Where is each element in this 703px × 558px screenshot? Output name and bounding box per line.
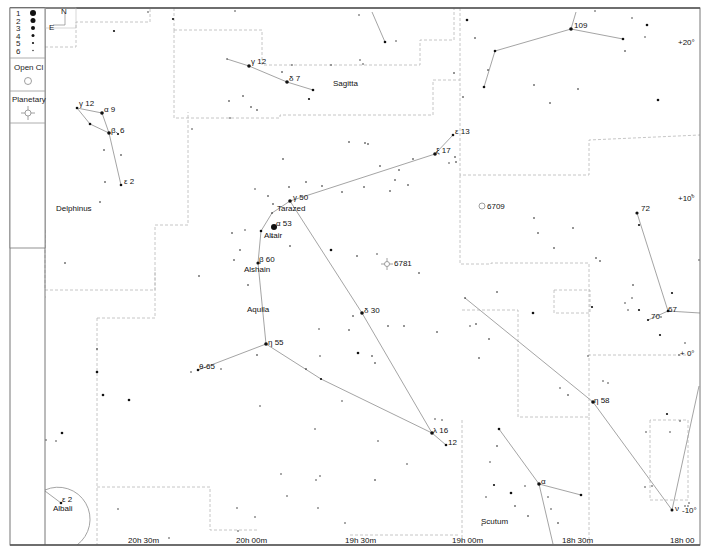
star <box>172 18 174 20</box>
star <box>288 199 292 203</box>
compass-east-label: E <box>49 23 54 32</box>
star <box>403 325 405 327</box>
star <box>379 165 381 167</box>
star <box>229 117 230 118</box>
star <box>524 485 525 486</box>
star-label: α 9 <box>104 105 116 114</box>
star <box>498 428 501 431</box>
star-label: θ-65 <box>199 362 216 371</box>
star <box>254 516 255 517</box>
star-label: η 58 <box>594 396 610 405</box>
star-label: Alshain <box>244 265 270 274</box>
star <box>314 428 315 429</box>
star <box>364 142 366 144</box>
star <box>291 64 292 65</box>
star <box>679 420 680 421</box>
star-label: γ 50 <box>293 193 309 202</box>
star <box>239 249 241 251</box>
star <box>330 64 331 65</box>
ra-tick-label: 20h 30m <box>128 536 159 545</box>
star <box>168 537 169 538</box>
star <box>259 405 260 406</box>
star <box>622 38 625 41</box>
star <box>550 508 551 509</box>
star-label: ε 2 <box>124 177 135 186</box>
magnitude-label: 6 <box>16 47 21 56</box>
star <box>395 40 396 41</box>
star <box>191 128 192 129</box>
star <box>569 27 573 31</box>
star <box>128 399 131 402</box>
star <box>580 494 583 497</box>
star <box>533 217 535 219</box>
star <box>305 181 307 183</box>
star <box>282 158 284 160</box>
star <box>120 154 122 156</box>
star <box>559 387 560 388</box>
star-chart[interactable]: γ 12α 9β. 6ε 2γ 12δ 7109ε 13ξ 17γ 50Tara… <box>0 0 703 558</box>
star <box>315 479 316 480</box>
star <box>357 352 360 355</box>
star <box>698 259 699 260</box>
open-cluster-legend-label: Open Cl <box>14 63 44 72</box>
star <box>319 355 320 356</box>
star <box>376 253 377 254</box>
star <box>474 37 476 39</box>
star <box>312 89 315 92</box>
star <box>635 211 638 214</box>
star <box>320 378 322 380</box>
star <box>271 212 273 214</box>
star <box>374 479 376 481</box>
star-label: 12 <box>448 438 457 447</box>
star <box>453 72 455 74</box>
star <box>487 69 489 71</box>
star <box>236 507 237 508</box>
compass-north-label: N <box>61 7 67 16</box>
star <box>406 463 407 464</box>
magnitude-dot-icon <box>31 26 35 30</box>
star <box>527 515 529 517</box>
star <box>647 319 649 321</box>
star <box>488 338 490 340</box>
star <box>358 14 359 15</box>
star <box>666 413 668 415</box>
star <box>624 302 625 303</box>
ra-tick-label: 19h 00m <box>452 536 483 545</box>
star <box>493 484 495 486</box>
star <box>671 509 674 512</box>
star <box>99 201 101 203</box>
star <box>434 418 435 419</box>
star <box>348 329 350 331</box>
star <box>237 530 238 531</box>
star <box>228 100 230 102</box>
star <box>599 260 601 262</box>
star <box>198 275 200 277</box>
star <box>475 323 477 325</box>
constellation-name: Sagitta <box>333 79 358 88</box>
star-label: ν <box>675 504 679 513</box>
star-label: γ 12 <box>79 99 95 108</box>
star <box>231 232 233 234</box>
star <box>602 380 603 381</box>
magnitude-dot-icon <box>30 10 36 16</box>
star <box>362 63 363 64</box>
star <box>553 247 555 249</box>
star <box>96 371 99 374</box>
star-label: Altair <box>264 231 283 240</box>
star <box>250 106 252 108</box>
star <box>317 507 318 508</box>
star <box>669 431 670 432</box>
star <box>330 249 333 252</box>
star <box>684 342 685 343</box>
star <box>190 371 191 372</box>
star <box>462 96 464 98</box>
star-label: 6781 <box>394 259 412 268</box>
star <box>441 419 442 420</box>
star <box>102 394 105 397</box>
star <box>359 59 360 60</box>
star <box>469 325 470 326</box>
star <box>226 58 227 59</box>
star-label: Albali <box>53 504 73 513</box>
star-label: ξ 17 <box>436 146 451 155</box>
magnitude-dot-icon <box>31 18 36 23</box>
